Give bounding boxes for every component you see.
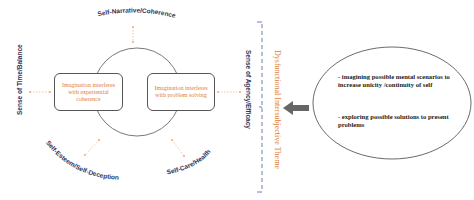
outcome-ellipse bbox=[313, 47, 471, 159]
ellipse-item-1: - imagining possible mental scenarios to… bbox=[338, 73, 458, 89]
dashed-bracket bbox=[257, 22, 262, 192]
top-label: Self-Narrative/Coherence bbox=[97, 6, 177, 18]
left-arrow-icon bbox=[283, 101, 309, 115]
theme-label: Dysfunctional Intersubjective Theme bbox=[273, 50, 282, 169]
ellipse-item-2: - exploring possible solutions to presen… bbox=[338, 113, 458, 129]
right-label: Sense of Agency/Efficacy bbox=[245, 50, 252, 129]
box-experiential-coherence: Imagination interferes with experiential… bbox=[54, 73, 123, 111]
bottom-left-label: Self-Esteem/Self-Deception bbox=[45, 139, 119, 181]
left-label: Sense of Time/Balance bbox=[16, 44, 23, 115]
box-problem-solving: Imagination interferes with problem solv… bbox=[147, 73, 215, 111]
bottom-right-label: Self-Care/Health bbox=[166, 148, 212, 176]
